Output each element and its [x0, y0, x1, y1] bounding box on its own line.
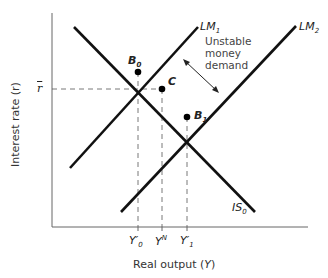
yn-tick-label: YN — [155, 234, 167, 248]
c-label: C — [168, 75, 176, 88]
b0-label: B0 — [128, 54, 141, 69]
y-axis-label: Interest rate (r) — [9, 82, 22, 167]
y1-tick-label: Y′1 — [180, 234, 194, 249]
is0-label: IS0 — [232, 201, 247, 216]
unstable-money-demand-note: Unstable money demand — [205, 35, 251, 71]
point-b1 — [184, 114, 191, 121]
point-b0 — [135, 69, 142, 76]
point-c — [159, 86, 166, 93]
lm2-label: LM2 — [299, 20, 319, 35]
lm1-label: LM1 — [200, 20, 220, 35]
x-axis-label: Real output (Y) — [133, 258, 215, 271]
y0-tick-label: Y′0 — [129, 234, 143, 249]
lm1-curve — [70, 27, 198, 168]
b1-label: B1 — [194, 109, 207, 124]
rbar-label: r — [37, 82, 42, 95]
